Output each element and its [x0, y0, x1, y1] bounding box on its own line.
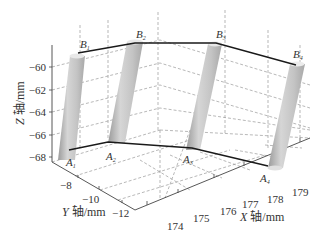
cylinder-3	[186, 44, 222, 150]
cylinder-4	[268, 64, 305, 168]
x-tick: 176	[220, 205, 237, 217]
z-tick: −66	[29, 129, 47, 141]
x-tick: 175	[193, 212, 210, 224]
x-tick: 174	[167, 220, 184, 232]
label-A4: A4	[259, 172, 270, 185]
label-B4: B4	[293, 48, 303, 61]
top-polyline	[78, 43, 296, 65]
z-tick: −68	[29, 151, 47, 163]
x-tick: 178	[267, 193, 284, 205]
z-tick-labels: −60 −62 −64 −66 −68	[29, 61, 47, 163]
y-tick: −10	[82, 193, 100, 205]
y-tick: −8	[60, 179, 72, 191]
label-B2: B2	[136, 28, 146, 41]
3d-plot: −60 −62 −64 −66 −68 Z 轴/mm −8 −10 −12 Y …	[0, 0, 321, 244]
cylinder-2	[108, 42, 143, 143]
z-tick: −62	[29, 84, 46, 96]
cylinder-1	[58, 56, 85, 160]
z-axis-label: Z 轴/mm	[12, 81, 27, 125]
bottom-polyline	[69, 142, 268, 166]
x-tick: 177	[242, 198, 259, 210]
y-tick: −12	[112, 207, 129, 219]
label-B3: B3	[216, 28, 226, 41]
z-tick: −64	[29, 106, 47, 118]
label-B1: B1	[80, 38, 90, 51]
x-tick-labels: 174 175 176 177 178 179	[167, 186, 309, 232]
axes	[52, 45, 310, 210]
x-axis-label: X 轴/mm	[239, 209, 285, 224]
y-axis-label: Y 轴/mm	[62, 204, 106, 219]
label-A3: A3	[182, 153, 193, 166]
label-A2: A2	[105, 150, 116, 163]
x-tick: 179	[292, 186, 309, 198]
z-tick: −60	[29, 61, 47, 73]
point-labels: B1 B2 B3 B4 A1 A2 A3 A4	[65, 28, 303, 185]
grid	[52, 10, 310, 200]
